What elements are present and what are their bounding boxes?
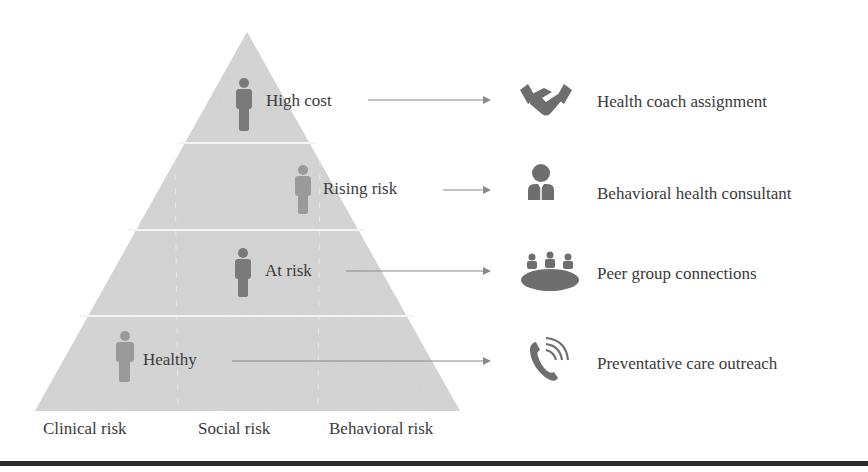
group-meeting-table-icon <box>521 252 579 292</box>
tier-label-rising-risk: Rising risk <box>323 179 397 199</box>
action-label-behavioral-consultant: Behavioral health consultant <box>597 184 792 204</box>
tier-label-at-risk: At risk <box>265 261 312 281</box>
handshake-icon <box>520 84 572 116</box>
action-label-preventative-care: Preventative care outreach <box>597 354 777 374</box>
tier-label-healthy: Healthy <box>143 350 197 370</box>
axis-label-clinical-risk: Clinical risk <box>43 419 127 439</box>
action-label-health-coach: Health coach assignment <box>597 92 767 112</box>
phone-ringing-icon <box>530 338 568 381</box>
axis-label-social-risk: Social risk <box>198 419 270 439</box>
risk-pyramid <box>0 0 868 472</box>
axis-label-behavioral-risk: Behavioral risk <box>329 419 433 439</box>
action-label-peer-group: Peer group connections <box>597 264 757 284</box>
bottom-rule <box>0 461 868 466</box>
consultant-person-icon <box>528 164 554 200</box>
tier-label-high-cost: High cost <box>266 91 332 111</box>
